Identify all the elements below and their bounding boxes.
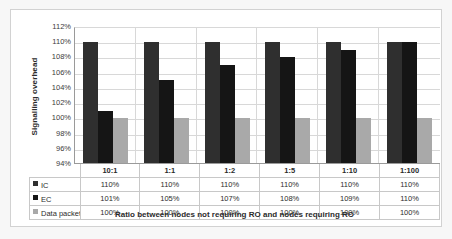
category-header-cell: 1:100 [380, 164, 440, 178]
y-axis-tick: 96% [56, 145, 71, 153]
category-header-cell: 1:2 [200, 164, 260, 178]
bar-ec [341, 50, 356, 164]
table-value-cell: 110% [80, 178, 140, 192]
bar-group [257, 28, 318, 164]
legend-label: IC [41, 180, 49, 189]
bar-ic [83, 42, 98, 164]
y-axis-tick: 100% [52, 115, 71, 123]
table-row: IC110%110%110%110%110%110% [30, 178, 440, 192]
bar-dp [356, 118, 371, 164]
bar-ic [265, 42, 280, 164]
table-value-cell: 101% [80, 192, 140, 206]
table-header-row: 10:11:11:21:51:101:100 [30, 164, 440, 178]
plot-area [74, 27, 440, 164]
bar-dp [295, 118, 310, 164]
bar-ic [205, 42, 220, 164]
bar-dp [174, 118, 189, 164]
table-value-cell: 110% [380, 192, 440, 206]
ec-swatch-icon [33, 195, 38, 200]
table-value-cell: 108% [260, 192, 320, 206]
table-value-cell: 107% [200, 192, 260, 206]
category-header-cell: 10:1 [80, 164, 140, 178]
y-axis-tick: 106% [52, 69, 71, 77]
y-axis-title-text: Signalling overhead [31, 57, 40, 135]
bar-ec [402, 42, 417, 164]
table-corner-cell [30, 164, 81, 178]
legend-cell: IC [30, 178, 81, 192]
category-header-cell: 1:1 [140, 164, 200, 178]
bar-dp [417, 118, 432, 164]
bar-group [379, 28, 440, 164]
table-value-cell: 109% [320, 192, 380, 206]
table-value-cell: 110% [140, 178, 200, 192]
category-header-cell: 1:5 [260, 164, 320, 178]
table-value-cell: 110% [380, 178, 440, 192]
bar-group [136, 28, 197, 164]
y-axis-tick: 102% [52, 99, 71, 107]
bar-dp [235, 118, 250, 164]
y-axis-tick: 104% [52, 84, 71, 92]
table-value-cell: 105% [140, 192, 200, 206]
y-axis-tick-labels: 112%110%108%106%104%102%100%98%96%94% [45, 24, 73, 167]
ic-swatch-icon [33, 181, 38, 186]
y-axis-tick: 108% [52, 54, 71, 62]
table-value-cell: 110% [260, 178, 320, 192]
bar-group [75, 28, 136, 164]
bar-group [197, 28, 258, 164]
table-row: EC101%105%107%108%109%110% [30, 192, 440, 206]
bar-ec [98, 111, 113, 164]
y-axis-tick: 98% [56, 130, 71, 138]
y-axis-title: Signalling overhead [24, 26, 46, 166]
x-axis-title: Ratio between nodes not requiring RO and… [29, 210, 440, 219]
category-header-cell: 1:10 [320, 164, 380, 178]
bar-group [318, 28, 379, 164]
bar-ic [326, 42, 341, 164]
legend-cell: EC [30, 192, 81, 206]
bar-dp [113, 118, 128, 164]
bar-ic [144, 42, 159, 164]
chart-screenshot: Signalling overhead 112%110%108%106%104%… [0, 0, 452, 239]
bar-ec [280, 57, 295, 164]
legend-label: EC [41, 194, 51, 203]
bar-ec [159, 80, 174, 164]
chart-frame: Signalling overhead 112%110%108%106%104%… [10, 9, 442, 227]
bar-ic [387, 42, 402, 164]
y-axis-tick: 112% [52, 23, 71, 31]
y-axis-tick: 110% [52, 38, 71, 46]
table-value-cell: 110% [320, 178, 380, 192]
bar-ec [220, 65, 235, 164]
bars-layer [75, 28, 440, 164]
table-value-cell: 110% [200, 178, 260, 192]
